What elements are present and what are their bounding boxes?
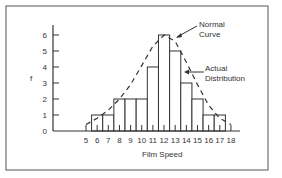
- arrowhead-icon: [176, 33, 182, 38]
- annotation-actual-line1: Actual: [205, 64, 227, 73]
- x-tick-label: 8: [117, 136, 122, 145]
- annotation-normal-line2: Curve: [199, 30, 221, 39]
- y-tick-label: 2: [43, 95, 48, 104]
- x-tick-label: 6: [95, 136, 100, 145]
- x-tick-label: 11: [149, 136, 158, 145]
- x-tick-label: 9: [128, 136, 133, 145]
- y-tick-label: 5: [43, 47, 48, 56]
- x-tick-label: 14: [182, 136, 191, 145]
- x-axis-label: Film Speed: [142, 150, 182, 159]
- x-tick-label: 7: [106, 136, 111, 145]
- x-tick-label: 13: [171, 136, 180, 145]
- histogram-bars: [92, 35, 226, 131]
- y-tick-label: 4: [43, 63, 48, 72]
- x-tick-label: 18: [226, 136, 235, 145]
- x-tick-label: 17: [215, 136, 224, 145]
- annotation-normal-line1: Normal: [199, 20, 225, 29]
- histogram-bar: [170, 51, 181, 131]
- y-tick-label: 6: [43, 31, 48, 40]
- x-tick-label: 12: [160, 136, 169, 145]
- y-tick-label: 0: [43, 127, 48, 136]
- x-tick-label: 10: [137, 136, 146, 145]
- histogram-bar: [147, 67, 158, 131]
- y-axis-ticks: 0123456: [43, 31, 59, 136]
- y-axis-label: f: [30, 74, 33, 83]
- annotation-actual-line2: Distribution: [205, 74, 245, 83]
- histogram-chart: 0123456 56789101112131415161718 f Film S…: [0, 0, 282, 178]
- y-tick-label: 1: [43, 111, 48, 120]
- histogram-bar: [158, 35, 169, 131]
- x-tick-label: 15: [193, 136, 202, 145]
- histogram-bar: [181, 83, 192, 131]
- arrowhead-icon: [184, 70, 189, 75]
- x-tick-label: 5: [84, 136, 89, 145]
- y-tick-label: 3: [43, 79, 48, 88]
- x-tick-label: 16: [204, 136, 213, 145]
